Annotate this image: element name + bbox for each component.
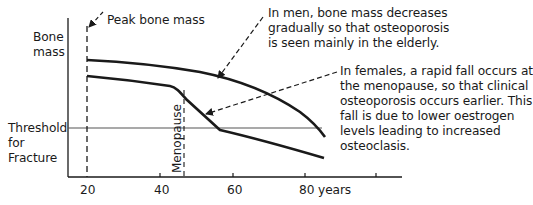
women-curve [87,76,324,158]
men-annotation: In men, bone mass decreases gradually so… [268,6,449,51]
y-axis-label: Bone mass [33,30,65,60]
female-annotation: In females, a rapid fall occurs at the m… [340,64,533,154]
threshold-label: Threshold for Fracture [8,121,67,166]
x-tick-40: 40 [154,183,169,198]
men-arrow [218,17,263,78]
menopause-label: Menopause [170,104,184,173]
x-tick-20: 20 [80,183,95,198]
x-tick-60: 60 [227,183,242,198]
x-tick-80: 80 years [299,183,351,198]
peak-bone-mass-label: Peak bone mass [107,13,205,28]
peak-arrow [89,12,103,27]
men-curve [87,60,325,137]
